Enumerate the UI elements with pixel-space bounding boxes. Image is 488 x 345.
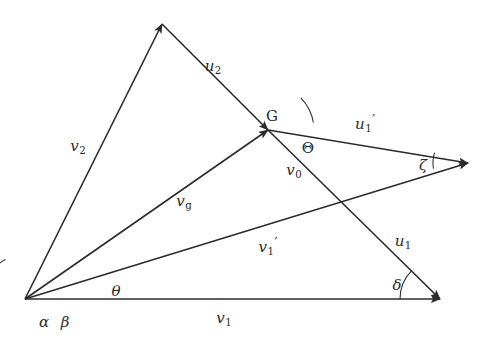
label-u2: u2 (205, 59, 222, 76)
label-u1-prime: u1′ (355, 114, 375, 134)
label-angle-theta: θ (111, 284, 120, 299)
arc-alpha-icon (0, 260, 5, 299)
vector-arrows (25, 24, 468, 299)
vector-u2-line (162, 24, 268, 130)
label-angle-delta: δ (392, 278, 401, 293)
vector-v1p-line (25, 163, 468, 299)
vector-u1p-line (268, 130, 468, 163)
vector-diagram-canvas (0, 0, 488, 345)
label-angle-beta: β (61, 315, 70, 330)
label-angle-alpha: α (39, 315, 49, 330)
vector-v2-line (25, 24, 162, 299)
label-v1: v1 (216, 311, 231, 328)
label-angle-Theta: Θ (302, 141, 314, 156)
label-u1: u1 (395, 234, 412, 251)
label-point-G: G (266, 109, 278, 124)
vector-vg-line (25, 130, 268, 299)
vector-diagram-figure: v2 u2 vg u1′ v1′ v0 u1 v1 α β θ Θ ζ δ G (0, 0, 488, 345)
label-v1-prime: v1′ (259, 237, 278, 257)
label-angle-zeta: ζ (419, 158, 427, 173)
label-v2: v2 (70, 139, 85, 156)
label-vg: vg (176, 194, 192, 211)
arc-zeta-icon (433, 153, 435, 169)
label-v0: v0 (286, 163, 301, 180)
arc-Theta-icon (301, 98, 314, 123)
vector-v0-line (268, 130, 440, 299)
arc-delta-icon (400, 271, 411, 299)
